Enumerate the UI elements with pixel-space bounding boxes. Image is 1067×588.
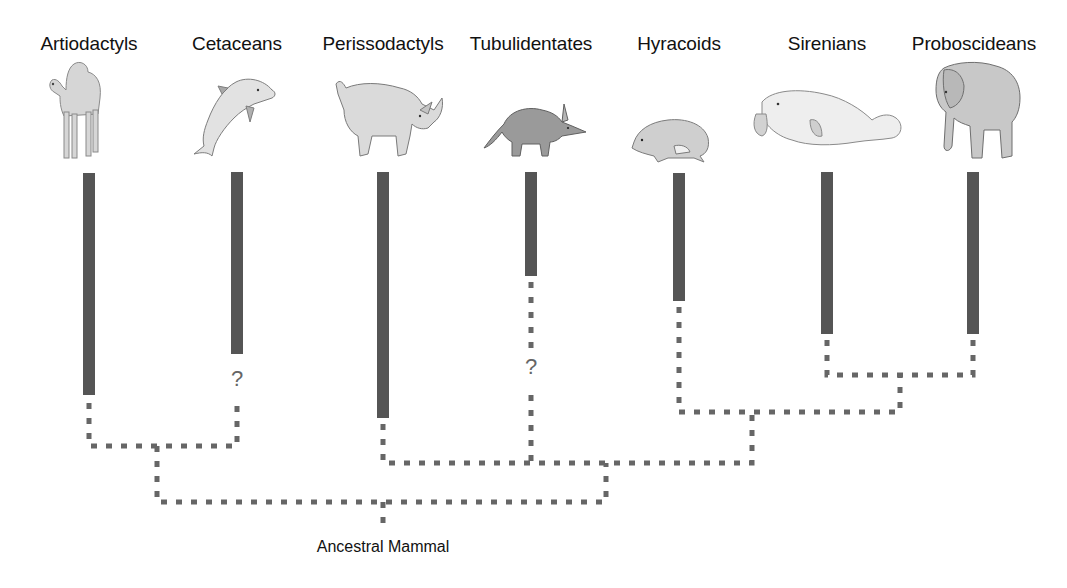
bar-perissodactyls [377, 172, 389, 418]
connector-periss-group [383, 412, 752, 463]
bar-tubulidentates [525, 172, 537, 276]
uncertain-marker-cetaceans: ? [231, 366, 243, 392]
bar-artiodactyls [83, 173, 95, 395]
uncertain-marker-tubulidentates: ? [525, 354, 537, 380]
root-label: Ancestral Mammal [317, 538, 449, 556]
connector-siren-probo [827, 340, 973, 375]
lineage-bars [83, 172, 979, 418]
connector-hyrax-paen [679, 307, 900, 412]
bar-sirenians [821, 172, 833, 334]
bar-hyracoids [673, 173, 685, 301]
dashed-connectors [89, 282, 973, 528]
bar-cetaceans [231, 172, 243, 354]
bar-proboscideans [967, 172, 979, 334]
phylogenetic-tree [0, 0, 1067, 588]
connector-artio-ceta [89, 403, 237, 446]
